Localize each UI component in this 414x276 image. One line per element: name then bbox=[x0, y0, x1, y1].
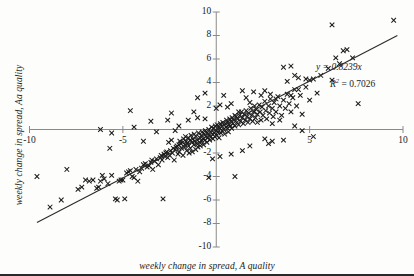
data-point bbox=[259, 93, 264, 98]
data-point bbox=[244, 95, 249, 100]
data-point bbox=[277, 104, 282, 109]
data-point bbox=[217, 135, 222, 140]
data-point bbox=[186, 118, 191, 123]
data-point bbox=[181, 153, 186, 158]
data-point bbox=[83, 178, 88, 183]
y-tick-label: 6 bbox=[186, 53, 211, 63]
data-point bbox=[289, 110, 294, 115]
data-point bbox=[161, 197, 166, 202]
data-point bbox=[330, 23, 335, 28]
y-tick-label: 10 bbox=[186, 6, 211, 16]
data-point bbox=[271, 114, 276, 119]
data-point bbox=[218, 154, 223, 159]
slope-equation-label: y = 0.8239x bbox=[316, 62, 362, 72]
data-point bbox=[59, 198, 64, 203]
data-point bbox=[192, 110, 197, 115]
data-point bbox=[289, 93, 294, 98]
data-point bbox=[356, 101, 361, 106]
data-point bbox=[91, 178, 96, 183]
r-squared-value: = 0.7026 bbox=[341, 79, 375, 89]
data-point bbox=[221, 93, 226, 98]
data-point bbox=[132, 125, 137, 130]
y-tick-label: -2 bbox=[186, 147, 211, 157]
data-point bbox=[333, 56, 338, 61]
y-tick-label: -6 bbox=[186, 194, 211, 204]
data-point bbox=[248, 144, 253, 149]
plot-area bbox=[0, 0, 414, 276]
r-squared-exponent: 2 bbox=[336, 77, 339, 84]
data-point bbox=[195, 115, 200, 120]
y-tick-label: 8 bbox=[186, 29, 211, 39]
data-point bbox=[169, 138, 174, 143]
data-point bbox=[285, 79, 290, 84]
data-point bbox=[298, 93, 303, 98]
data-point bbox=[248, 100, 253, 105]
data-point bbox=[108, 146, 113, 151]
data-point bbox=[177, 124, 182, 129]
x-tick-label: 5 bbox=[299, 135, 321, 145]
data-point bbox=[156, 162, 161, 167]
data-point bbox=[150, 167, 155, 172]
y-axis-title: weekly change in spread, Aa quality bbox=[14, 45, 24, 225]
data-point bbox=[304, 77, 309, 82]
data-point bbox=[65, 167, 70, 172]
data-point bbox=[35, 174, 40, 179]
data-point bbox=[251, 90, 256, 95]
x-tick-label: 10 bbox=[392, 135, 414, 145]
y-tick-label: -10 bbox=[186, 241, 211, 251]
data-point bbox=[218, 103, 223, 108]
data-point bbox=[169, 111, 174, 116]
y-tick-label: 4 bbox=[186, 76, 211, 86]
y-tick-label: -4 bbox=[186, 170, 211, 180]
data-point bbox=[165, 118, 170, 123]
data-point bbox=[294, 104, 299, 109]
data-point bbox=[300, 112, 305, 117]
data-point bbox=[270, 121, 275, 126]
data-point bbox=[87, 179, 92, 184]
data-point bbox=[274, 110, 279, 115]
data-point bbox=[240, 148, 245, 153]
data-point bbox=[233, 174, 238, 179]
data-point bbox=[115, 198, 120, 203]
slope-equation-text: y = 0.8239x bbox=[316, 62, 362, 72]
data-point bbox=[268, 92, 273, 97]
data-point bbox=[287, 101, 292, 106]
data-point bbox=[263, 137, 268, 142]
data-point bbox=[345, 47, 350, 52]
data-point bbox=[281, 98, 286, 103]
data-point bbox=[304, 85, 309, 90]
data-point bbox=[96, 185, 101, 190]
data-point bbox=[149, 119, 154, 124]
data-point bbox=[203, 117, 208, 122]
data-point bbox=[341, 48, 346, 53]
y-tick-label: 2 bbox=[186, 100, 211, 110]
data-point bbox=[315, 91, 320, 96]
data-point bbox=[172, 158, 177, 163]
data-point bbox=[277, 118, 282, 123]
data-point bbox=[122, 197, 127, 202]
data-point bbox=[279, 113, 284, 118]
x-axis-title: weekly change in spread, A quality bbox=[0, 261, 414, 271]
data-point bbox=[292, 124, 297, 129]
data-point bbox=[281, 65, 286, 70]
data-point bbox=[109, 173, 114, 178]
data-point bbox=[307, 98, 312, 103]
data-point bbox=[210, 157, 215, 162]
y-tick-label: -8 bbox=[186, 217, 211, 227]
data-point bbox=[283, 106, 288, 111]
data-point bbox=[154, 130, 159, 135]
scatter-plot-svg bbox=[0, 0, 414, 276]
data-point bbox=[240, 88, 245, 93]
data-point bbox=[229, 101, 234, 106]
data-points bbox=[35, 18, 396, 209]
scatter-chart: -10-5510-10-8-6-4-2246810 y = 0.8239x R2… bbox=[0, 0, 414, 276]
data-point bbox=[203, 91, 208, 96]
data-point bbox=[281, 138, 286, 143]
data-point bbox=[136, 179, 141, 184]
r-squared-label: R2 = 0.7026 bbox=[330, 77, 375, 89]
data-point bbox=[229, 152, 234, 157]
data-point bbox=[289, 64, 294, 69]
data-point bbox=[263, 88, 268, 93]
data-point bbox=[391, 18, 396, 23]
x-tick-label: -5 bbox=[112, 135, 134, 145]
